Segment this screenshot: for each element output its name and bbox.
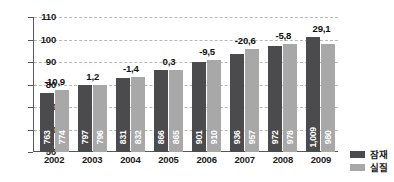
legend-item-potential[interactable]: 잠재 bbox=[350, 150, 388, 160]
bar-actual[interactable]: 978 bbox=[283, 44, 297, 152]
gap-label: 1,2 bbox=[86, 72, 99, 82]
legend-swatch-icon bbox=[350, 164, 365, 171]
x-axis-tick-label: 2006 bbox=[187, 155, 227, 165]
bar-value-label: 763 bbox=[42, 131, 51, 145]
x-axis-tick-label: 2002 bbox=[34, 155, 74, 165]
bar-potential[interactable]: 866 bbox=[154, 70, 168, 152]
x-axis-tick-label: 2005 bbox=[148, 155, 188, 165]
bar-value-label: 797 bbox=[80, 131, 89, 145]
x-axis-tick-label: 2007 bbox=[225, 155, 265, 165]
legend: 잠재실질 bbox=[350, 150, 388, 172]
bar-value-label: 901 bbox=[195, 131, 204, 145]
bar-value-label: 832 bbox=[134, 131, 143, 145]
bar-value-label: 865 bbox=[172, 131, 181, 145]
bar-potential[interactable]: 901 bbox=[192, 62, 206, 152]
legend-label: 잠재 bbox=[370, 150, 388, 160]
bar-actual[interactable]: 796 bbox=[93, 85, 107, 152]
bar-group: 901910-9,5 bbox=[192, 17, 221, 152]
bar-chart: 5060708090100110 763774-10,97977961,2831… bbox=[0, 0, 394, 182]
bar-value-label: 831 bbox=[119, 131, 128, 145]
legend-label: 실질 bbox=[370, 163, 388, 173]
bar-actual[interactable]: 774 bbox=[55, 90, 69, 152]
gap-label: -10,9 bbox=[44, 77, 65, 87]
gap-label: 0,3 bbox=[163, 57, 176, 67]
bar-value-label: 1,009 bbox=[309, 127, 318, 148]
bar-group: 936957-20,6 bbox=[230, 17, 259, 152]
x-axis-tick-label: 2009 bbox=[301, 155, 341, 165]
bar-value-label: 972 bbox=[271, 131, 280, 145]
bar-potential[interactable]: 797 bbox=[78, 85, 92, 152]
bar-value-label: 936 bbox=[233, 131, 242, 145]
bar-potential[interactable]: 1,009 bbox=[306, 37, 320, 152]
gap-label: -5,8 bbox=[275, 31, 291, 41]
x-axis-tick-labels: 20022003200420052006200720082009 bbox=[33, 155, 338, 171]
bar-potential[interactable]: 972 bbox=[268, 46, 282, 152]
bar-group: 831832-1,4 bbox=[116, 17, 145, 152]
bar-actual[interactable]: 865 bbox=[169, 70, 183, 152]
x-axis-tick-label: 2008 bbox=[263, 155, 303, 165]
bar-group: 972978-5,8 bbox=[268, 17, 297, 152]
bar-actual[interactable]: 832 bbox=[131, 77, 145, 152]
gap-label: -9,5 bbox=[199, 47, 215, 57]
gap-label: -20,6 bbox=[235, 36, 256, 46]
bar-group: 763774-10,9 bbox=[40, 17, 69, 152]
bar-actual[interactable]: 957 bbox=[245, 49, 259, 152]
bar-groups: 763774-10,97977961,2831832-1,48668650,39… bbox=[33, 17, 338, 152]
gap-label: -1,4 bbox=[123, 64, 139, 74]
bar-value-label: 910 bbox=[210, 131, 219, 145]
bar-actual[interactable]: 910 bbox=[207, 60, 221, 152]
gap-label: 29,1 bbox=[313, 24, 331, 34]
bar-group: 7977961,2 bbox=[78, 17, 107, 152]
bar-potential[interactable]: 936 bbox=[230, 54, 244, 152]
bar-group: 8668650,3 bbox=[154, 17, 183, 152]
bar-value-label: 957 bbox=[248, 131, 257, 145]
bar-value-label: 774 bbox=[57, 131, 66, 145]
legend-swatch-icon bbox=[350, 151, 365, 158]
x-axis-tick-label: 2003 bbox=[72, 155, 112, 165]
x-axis-tick-label: 2004 bbox=[110, 155, 150, 165]
bar-actual[interactable]: 980 bbox=[321, 44, 335, 152]
bar-value-label: 978 bbox=[286, 131, 295, 145]
bar-group: 1,00998029,1 bbox=[306, 17, 335, 152]
bar-potential[interactable]: 831 bbox=[116, 78, 130, 152]
bar-value-label: 796 bbox=[95, 131, 104, 145]
legend-item-actual[interactable]: 실질 bbox=[350, 163, 388, 173]
bar-value-label: 866 bbox=[157, 131, 166, 145]
bar-potential[interactable]: 763 bbox=[40, 93, 54, 152]
bar-value-label: 980 bbox=[324, 131, 333, 145]
